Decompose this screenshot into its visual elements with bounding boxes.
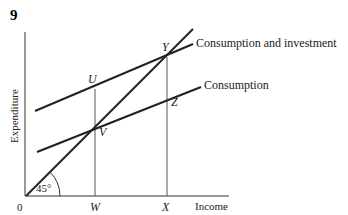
tick-w-label: W (90, 200, 101, 214)
consumption-and-investment-label: Consumption and investment (196, 36, 337, 50)
consumption-and-investment-line (35, 44, 193, 111)
origin-label: 0 (17, 201, 23, 213)
x-axis-label: Income (195, 200, 228, 212)
point-z-label: Z (171, 95, 178, 109)
point-u-label: U (88, 72, 98, 86)
angle-label: 45° (36, 182, 51, 194)
figure-number: 9 (10, 7, 18, 23)
45-degree-arc (50, 172, 60, 196)
keynesian-cross-diagram: 9 45° Consumption and investment Consump… (0, 0, 348, 215)
tick-x-label: X (161, 200, 170, 214)
y-axis-label: Expenditure (8, 89, 20, 143)
consumption-label: Consumption (204, 78, 269, 92)
point-v-label: V (99, 125, 108, 139)
